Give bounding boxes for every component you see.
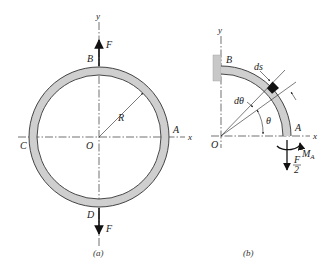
figure-a: R y F B C A x O D F (a) bbox=[18, 11, 192, 258]
radius-label: R bbox=[117, 112, 124, 123]
moment-label-sub: A bbox=[309, 153, 315, 161]
fraction-denominator: 2 bbox=[294, 164, 299, 175]
force-fraction-label: F 2 bbox=[293, 154, 301, 175]
point-a-label-b: A bbox=[294, 122, 302, 133]
theta-label: θ bbox=[266, 115, 271, 126]
caption-a: (a) bbox=[93, 248, 104, 258]
point-b-label-a: B bbox=[87, 53, 93, 64]
moment-arrow-ma bbox=[277, 143, 300, 150]
moment-label: MA bbox=[301, 148, 315, 161]
force-label-top: F bbox=[105, 39, 113, 50]
point-d-label: D bbox=[86, 209, 95, 220]
point-c-label: C bbox=[20, 140, 27, 151]
y-axis-label-a: y bbox=[95, 11, 100, 21]
ds-arrow-lower bbox=[291, 92, 296, 100]
figure-b: ds dθ θ y B A x O MA F 2 (b) bbox=[211, 25, 317, 258]
y-axis-label-b: y bbox=[217, 25, 222, 35]
point-a-label-a: A bbox=[172, 124, 180, 135]
x-axis-label-b: x bbox=[312, 131, 317, 141]
origin-label-a: O bbox=[86, 140, 93, 151]
origin-label-b: O bbox=[211, 139, 218, 150]
force-label-bottom: F bbox=[105, 223, 113, 234]
theta-arc bbox=[257, 110, 263, 134]
ds-label: ds bbox=[254, 61, 263, 72]
diagram-canvas: R y F B C A x O D F (a) bbox=[0, 0, 328, 269]
point-b-label-b: B bbox=[226, 54, 232, 65]
dtheta-label: dθ bbox=[234, 95, 244, 106]
x-axis-label-a: x bbox=[187, 132, 192, 142]
caption-b: (b) bbox=[243, 248, 254, 258]
fixed-support-wall bbox=[213, 55, 221, 81]
